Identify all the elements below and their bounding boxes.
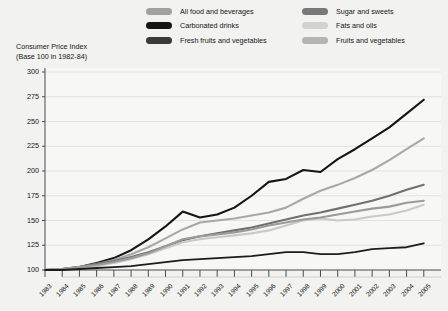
y-axis-tick-label: 200: [13, 167, 39, 174]
plot-svg: [0, 0, 448, 311]
y-axis-tick-label: 175: [13, 192, 39, 199]
y-axis-tick-label: 250: [13, 118, 39, 125]
y-axis-tick-label: 225: [13, 142, 39, 149]
y-axis-tick-label: 125: [13, 241, 39, 248]
y-axis-tick-label: 100: [13, 266, 39, 273]
y-axis-tick-label: 275: [13, 93, 39, 100]
y-axis-tick-label: 150: [13, 217, 39, 224]
cpi-line-chart: All food and beverages Carbonated drinks…: [0, 0, 448, 311]
plot-background: [45, 68, 441, 270]
plot-area: 100125150175200225250275300 198319841985…: [0, 0, 448, 311]
y-axis-tick-label: 300: [13, 68, 39, 75]
